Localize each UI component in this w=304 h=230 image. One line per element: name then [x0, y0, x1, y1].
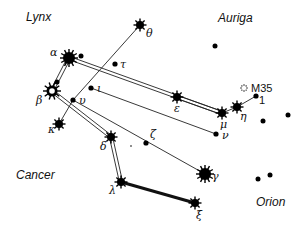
stars-layer	[43, 19, 291, 210]
double-line	[176, 99, 221, 115]
field-star-icon	[286, 113, 291, 118]
star-label-gamma: γ	[212, 170, 219, 183]
field-star-icon	[261, 119, 266, 124]
star-label-eta: η	[240, 110, 247, 123]
star-label-alpha: α	[50, 46, 58, 59]
star-zeta-icon	[143, 140, 148, 145]
field-star-icon	[55, 80, 60, 85]
star-one-icon	[253, 93, 258, 98]
double-line	[178, 95, 223, 111]
field-star-icon	[79, 54, 84, 59]
single-line	[73, 100, 205, 174]
star-lambda-icon	[115, 176, 128, 189]
star-label-theta: θ	[146, 27, 153, 40]
constellation-lynx: Lynx	[26, 10, 52, 24]
single-line	[73, 25, 140, 100]
star-label-tau: τ	[120, 58, 127, 71]
field-star-icon	[268, 173, 273, 178]
star-label-kappa: κ	[47, 123, 56, 136]
star-label-lambda: λ	[108, 184, 116, 197]
star-label-xi: ξ	[196, 209, 203, 222]
star-xi-icon	[189, 197, 202, 210]
star-alpha-icon	[60, 49, 78, 67]
star-label-nu: ν	[222, 129, 229, 142]
star-label-epsilon: ε	[174, 102, 180, 115]
star-label-upsilon: υ	[79, 94, 86, 107]
star-nu-icon	[213, 131, 218, 136]
star-chart: θατιβυκδζεμη1νγλξM35LynxAurigaCancerOrio…	[0, 0, 304, 230]
field-star-icon	[256, 177, 261, 182]
field-star-icon	[130, 145, 132, 147]
star-beta-icon	[43, 82, 61, 99]
star-label-iota: ι	[97, 82, 101, 95]
star-tau-icon	[112, 61, 117, 66]
constellation-cancer: Cancer	[16, 168, 56, 182]
cluster-m35-icon	[240, 84, 247, 91]
star-upsilon-icon	[70, 97, 75, 102]
thick-line	[121, 182, 195, 203]
field-star-icon	[213, 44, 218, 49]
star-label-one: 1	[259, 94, 265, 106]
star-label-beta: β	[35, 94, 42, 107]
constellation-orion: Orion	[256, 195, 286, 209]
constellation-auriga: Auriga	[217, 11, 253, 25]
cluster-label: M35	[251, 82, 272, 94]
star-theta-icon	[134, 19, 147, 32]
star-label-delta: δ	[100, 140, 107, 153]
star-iota-icon	[88, 85, 93, 90]
star-label-zeta: ζ	[150, 128, 157, 141]
